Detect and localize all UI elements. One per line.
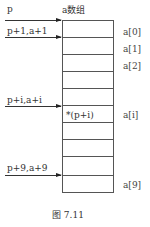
cell-divider xyxy=(63,105,113,106)
figure-caption: 图 7.11 xyxy=(52,208,84,221)
index-label-0: a[0] xyxy=(123,27,141,37)
pointer-label-p: p xyxy=(7,4,13,14)
cell-divider xyxy=(63,71,113,72)
array-title: a数组 xyxy=(62,5,85,15)
pointer-label-p9: p+9,a+9 xyxy=(7,163,48,173)
cell-divider xyxy=(63,88,113,89)
index-label-9: a[9] xyxy=(123,180,141,190)
pointer-label-p1: p+1,a+1 xyxy=(7,26,48,36)
pointer-label-pi: p+i,a+i xyxy=(7,95,42,105)
cell-divider xyxy=(63,54,113,55)
cell-divider xyxy=(63,122,113,123)
index-label-2: a[2] xyxy=(123,61,141,71)
cell-divider xyxy=(63,175,113,176)
pointer-arrow-p9 xyxy=(5,175,61,176)
cell-deref-text: *(p+i) xyxy=(66,110,94,120)
array-box xyxy=(62,20,114,193)
cell-divider xyxy=(63,37,113,38)
pointer-arrow-p xyxy=(5,20,61,21)
index-label-i: a[i] xyxy=(123,110,138,120)
cell-divider xyxy=(63,156,113,157)
pointer-arrow-p1 xyxy=(5,37,61,38)
pointer-arrow-pi xyxy=(5,106,61,107)
cell-divider xyxy=(63,139,113,140)
index-label-1: a[1] xyxy=(123,44,141,54)
